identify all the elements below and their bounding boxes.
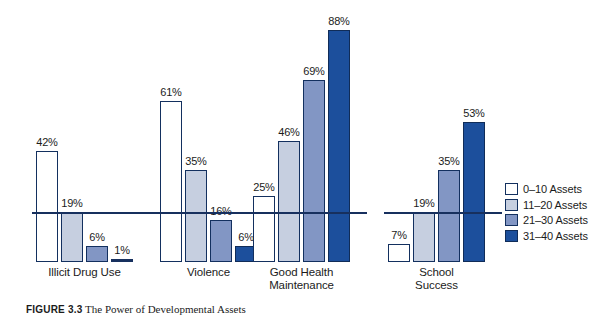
- bar-value-label: 16%: [210, 205, 231, 217]
- bar-group: 42%19%6%1%: [36, 151, 133, 262]
- bar-item: 61%: [160, 101, 182, 262]
- bar-item: 25%: [253, 196, 275, 262]
- axis-baseline: [384, 212, 502, 214]
- bar-value-label: 19%: [413, 197, 434, 209]
- legend-item: 21–30 Assets: [505, 214, 588, 226]
- figure-caption-text: The Power of Developmental Assets: [85, 303, 246, 315]
- bar-item: 19%: [61, 212, 83, 262]
- bar-value-label: 6%: [89, 231, 105, 243]
- bar-value-label: 6%: [238, 231, 254, 243]
- bar: [160, 101, 182, 262]
- legend-swatch-icon: [505, 183, 518, 195]
- bar-value-label: 35%: [185, 155, 206, 167]
- bar-group: 61%35%16%6%: [160, 101, 257, 262]
- legend-label: 0–10 Assets: [523, 183, 582, 195]
- bar-value-label: 46%: [278, 126, 299, 138]
- bar: [61, 212, 83, 262]
- bar-item: 1%: [111, 259, 133, 262]
- category-label: SchoolSuccess: [363, 266, 510, 292]
- bar: [210, 220, 232, 262]
- bar-value-label: 53%: [463, 107, 484, 119]
- bar-group: 7%19%35%53%: [388, 122, 485, 262]
- bar: [278, 141, 300, 262]
- legend-label: 31–40 Assets: [523, 230, 588, 242]
- legend-swatch-icon: [505, 230, 518, 242]
- bar-value-label: 42%: [36, 136, 57, 148]
- bar: [86, 246, 108, 262]
- bar-value-label: 88%: [328, 15, 349, 27]
- bar-item: 42%: [36, 151, 58, 262]
- legend-item: 31–40 Assets: [505, 230, 588, 242]
- bar-value-label: 69%: [303, 65, 324, 77]
- bar: [463, 122, 485, 262]
- bar-value-label: 1%: [114, 244, 130, 256]
- bar-value-label: 19%: [61, 197, 82, 209]
- category-label-line: Success: [363, 279, 510, 292]
- axis-baseline: [249, 212, 367, 214]
- bar: [328, 30, 350, 262]
- legend-item: 11–20 Assets: [505, 199, 588, 211]
- bar-value-label: 7%: [391, 229, 407, 241]
- bar: [36, 151, 58, 262]
- chart-legend: 0–10 Assets11–20 Assets21–30 Assets31–40…: [505, 183, 588, 242]
- category-label-line: Good Health: [228, 266, 375, 279]
- bar-value-label: 35%: [438, 155, 459, 167]
- bar-item: 35%: [438, 170, 460, 262]
- axis-baseline: [32, 212, 172, 214]
- bar-value-label: 61%: [160, 86, 181, 98]
- bar-item: 46%: [278, 141, 300, 262]
- bar: [388, 244, 410, 262]
- bar-item: 19%: [413, 212, 435, 262]
- legend-swatch-icon: [505, 214, 518, 226]
- bar-value-label: 25%: [253, 181, 274, 193]
- bar-item: 35%: [185, 170, 207, 262]
- category-label: Good HealthMaintenance: [228, 266, 375, 292]
- bar: [111, 259, 133, 262]
- figure-container: 42%19%6%1%Illicit Drug Use61%35%16%6%Vio…: [0, 0, 605, 315]
- bar-item: 88%: [328, 30, 350, 262]
- bar-item: 7%: [388, 244, 410, 262]
- category-label-line: Maintenance: [228, 279, 375, 292]
- category-label-line: School: [363, 266, 510, 279]
- figure-caption: FIGURE 3.3 The Power of Developmental As…: [26, 303, 246, 315]
- bar: [438, 170, 460, 262]
- bar: [413, 212, 435, 262]
- legend-swatch-icon: [505, 199, 518, 211]
- bar-item: 53%: [463, 122, 485, 262]
- figure-number: FIGURE 3.3: [26, 304, 82, 315]
- bar: [253, 196, 275, 262]
- bar: [303, 80, 325, 262]
- legend-label: 11–20 Assets: [523, 199, 587, 211]
- bar-group: 25%46%69%88%: [253, 30, 350, 262]
- bar-item: 16%: [210, 220, 232, 262]
- legend-item: 0–10 Assets: [505, 183, 588, 195]
- bar-item: 6%: [86, 246, 108, 262]
- bar-item: 69%: [303, 80, 325, 262]
- legend-label: 21–30 Assets: [523, 214, 588, 226]
- bar: [185, 170, 207, 262]
